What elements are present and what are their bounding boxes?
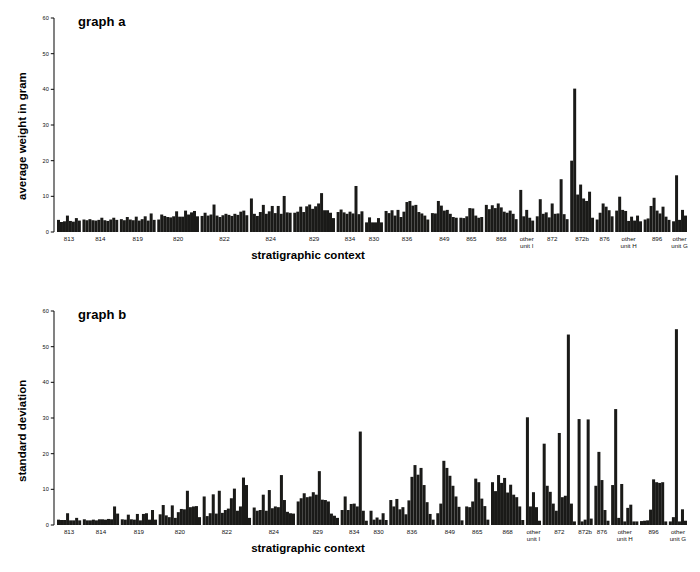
bar bbox=[72, 222, 75, 232]
bar bbox=[417, 212, 420, 232]
bar bbox=[659, 213, 662, 232]
bar bbox=[624, 211, 627, 232]
bar-group bbox=[57, 216, 81, 232]
bar bbox=[97, 220, 100, 232]
bar bbox=[135, 217, 138, 232]
bar bbox=[144, 216, 147, 232]
bar bbox=[379, 520, 382, 525]
bar bbox=[109, 220, 112, 232]
bar bbox=[346, 214, 349, 232]
bar-group bbox=[594, 452, 609, 525]
bar bbox=[180, 509, 183, 525]
bar bbox=[542, 214, 545, 232]
bar bbox=[94, 221, 97, 232]
bar bbox=[525, 210, 528, 232]
x-category-label: 849 bbox=[445, 528, 456, 535]
bar bbox=[337, 212, 340, 232]
bar bbox=[344, 496, 347, 525]
x-category-label: 876 bbox=[599, 235, 610, 242]
bar bbox=[440, 206, 443, 232]
bar bbox=[312, 492, 315, 525]
bar bbox=[265, 511, 268, 525]
bar bbox=[515, 497, 518, 525]
bar bbox=[658, 483, 661, 525]
bar bbox=[268, 490, 271, 525]
bar-group bbox=[611, 409, 638, 525]
bar-group bbox=[201, 205, 249, 232]
bar bbox=[485, 205, 488, 232]
bar bbox=[147, 221, 150, 232]
bar bbox=[644, 220, 647, 232]
bar bbox=[545, 212, 548, 232]
x-category-label: 814 bbox=[96, 528, 107, 535]
bar bbox=[376, 518, 379, 525]
bar-group bbox=[672, 175, 687, 232]
bar bbox=[512, 214, 515, 232]
y-tick-label: 0 bbox=[46, 229, 49, 235]
bar bbox=[371, 222, 374, 232]
bar bbox=[640, 521, 643, 525]
x-category-label: 849 bbox=[439, 235, 450, 242]
bar bbox=[303, 493, 306, 525]
bar bbox=[292, 514, 295, 525]
bar bbox=[564, 496, 567, 525]
bar bbox=[181, 217, 184, 232]
bar bbox=[103, 220, 106, 232]
bar bbox=[83, 519, 86, 525]
bar bbox=[256, 511, 259, 525]
bar bbox=[529, 506, 532, 525]
bar bbox=[675, 175, 678, 232]
bar bbox=[163, 216, 166, 232]
bar bbox=[672, 517, 675, 525]
bar bbox=[207, 216, 210, 232]
bar bbox=[157, 220, 160, 232]
bar bbox=[174, 518, 177, 525]
y-tick-label: 10 bbox=[43, 486, 49, 492]
bar bbox=[681, 210, 684, 232]
bar bbox=[277, 206, 280, 232]
bar bbox=[652, 479, 655, 525]
bar bbox=[614, 409, 617, 525]
x-category-label: 865 bbox=[472, 528, 483, 535]
bar bbox=[442, 461, 445, 525]
bar bbox=[539, 199, 542, 232]
bar bbox=[329, 213, 332, 232]
x-category-label: 822 bbox=[222, 528, 233, 535]
bar bbox=[151, 510, 154, 525]
bar bbox=[503, 478, 506, 525]
bar bbox=[265, 214, 268, 232]
bar bbox=[330, 514, 333, 525]
bar bbox=[486, 520, 489, 525]
bar bbox=[75, 518, 78, 525]
bar bbox=[326, 210, 329, 232]
bar bbox=[630, 217, 633, 232]
y-tick-label: 10 bbox=[43, 193, 49, 199]
bar-group bbox=[459, 208, 483, 232]
bar-group bbox=[465, 479, 489, 525]
bar bbox=[566, 219, 569, 232]
bar bbox=[216, 216, 219, 232]
bar-group bbox=[596, 203, 614, 232]
bar bbox=[506, 493, 509, 525]
bar bbox=[139, 520, 142, 525]
bar bbox=[268, 211, 271, 232]
bar bbox=[567, 335, 570, 525]
bar bbox=[460, 520, 463, 525]
chart-panel-graph-b: graph b standard deviation stratigraphic… bbox=[0, 286, 700, 572]
bar bbox=[66, 513, 69, 525]
x-category-label-line2: unit G bbox=[670, 535, 687, 542]
bar bbox=[512, 495, 515, 525]
bar bbox=[398, 509, 401, 525]
bar bbox=[503, 212, 506, 232]
bar bbox=[336, 518, 339, 525]
bar bbox=[262, 495, 265, 525]
bar bbox=[678, 220, 681, 232]
bar-group bbox=[389, 465, 434, 525]
bar bbox=[596, 220, 599, 232]
x-category-label: 822 bbox=[219, 235, 230, 242]
y-tick-label: 40 bbox=[43, 379, 49, 385]
bar bbox=[557, 213, 560, 232]
bar-group bbox=[644, 198, 671, 232]
y-tick-label: 50 bbox=[43, 344, 49, 350]
x-category-label: 824 bbox=[266, 235, 277, 242]
